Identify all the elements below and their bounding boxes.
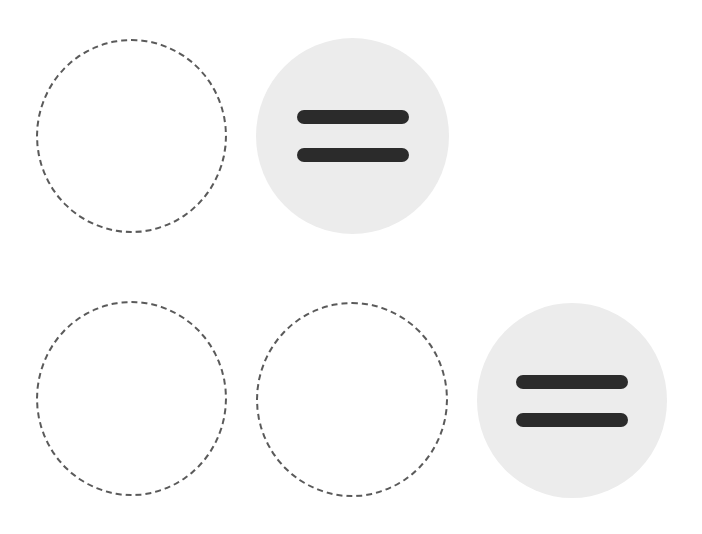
equals-bar-bottom xyxy=(297,148,409,162)
empty-slot-r2-1[interactable] xyxy=(36,301,227,496)
equals-bar-bottom xyxy=(516,413,628,427)
equals-bar-top xyxy=(297,110,409,124)
empty-slot-r2-2[interactable] xyxy=(256,302,448,497)
equals-token-r1[interactable] xyxy=(256,38,449,234)
equals-token-r2[interactable] xyxy=(477,303,667,498)
empty-slot-r1-1[interactable] xyxy=(36,39,227,233)
equals-bar-top xyxy=(516,375,628,389)
